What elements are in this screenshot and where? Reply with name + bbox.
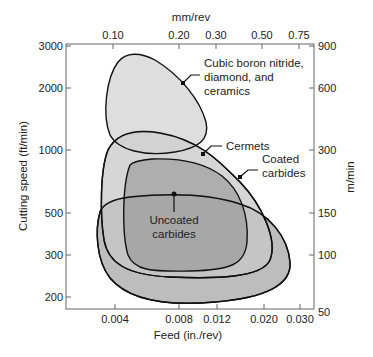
x-tick-label: 0.004 xyxy=(101,313,129,325)
x2-tick-label: 0.50 xyxy=(251,29,272,41)
x-axis-label: Feed (in./rev) xyxy=(154,329,223,341)
x-tick-label: 0.012 xyxy=(203,313,231,325)
y2-tick-label: 150 xyxy=(318,207,336,219)
y-axis-right xyxy=(309,46,314,255)
y2-axis-label: m/min xyxy=(344,161,356,192)
y2-tick-label: 100 xyxy=(318,249,336,261)
label-uncoated: Uncoated xyxy=(149,214,198,226)
y-tick-label: 1000 xyxy=(39,144,63,156)
x2-tick-label: 0.20 xyxy=(168,29,189,41)
marker-coated xyxy=(238,175,242,179)
x-tick-label: 0.030 xyxy=(286,313,314,325)
x-tick-label: 0.008 xyxy=(165,313,193,325)
y-tick-label: 2000 xyxy=(39,82,63,94)
x-tick-label: 0.020 xyxy=(250,313,278,325)
label-coated: Coated xyxy=(262,153,299,165)
y-tick-label: 200 xyxy=(45,291,63,303)
y-tick-label: 500 xyxy=(45,207,63,219)
x-axis-bottom xyxy=(115,304,300,309)
tool-material-chart: 3000 2000 1000 500 300 200 Cutting speed… xyxy=(0,0,373,357)
y2-tick-label: 900 xyxy=(318,40,336,52)
y-tick-label: 3000 xyxy=(39,40,63,52)
label-uncoated: carbides xyxy=(152,228,196,240)
marker-cermets xyxy=(201,152,205,156)
y-tick-label: 300 xyxy=(45,249,63,261)
label-coated: carbides xyxy=(262,167,306,179)
label-cbn: ceramics xyxy=(204,85,250,97)
x2-tick-label: 0.10 xyxy=(102,29,123,41)
x2-axis-label: mm/rev xyxy=(172,11,211,23)
y-axis-left xyxy=(66,46,71,297)
region-cbn-diamond-ceramics xyxy=(106,54,207,153)
x2-tick-label: 0.75 xyxy=(288,29,309,41)
marker-uncoated xyxy=(172,192,177,197)
x-axis-top xyxy=(113,44,299,49)
x2-tick-label: 0.30 xyxy=(205,29,226,41)
y2-tick-label: 50 xyxy=(318,306,330,318)
y2-tick-label: 600 xyxy=(318,82,336,94)
marker-cbn xyxy=(181,81,185,85)
y2-tick-label: 300 xyxy=(318,144,336,156)
label-cermets: Cermets xyxy=(226,140,270,152)
label-cbn: Cubic boron nitride, xyxy=(204,57,304,69)
label-cbn: diamond, and xyxy=(204,71,274,83)
y-axis-label: Cutting speed (ft/min) xyxy=(17,121,29,231)
